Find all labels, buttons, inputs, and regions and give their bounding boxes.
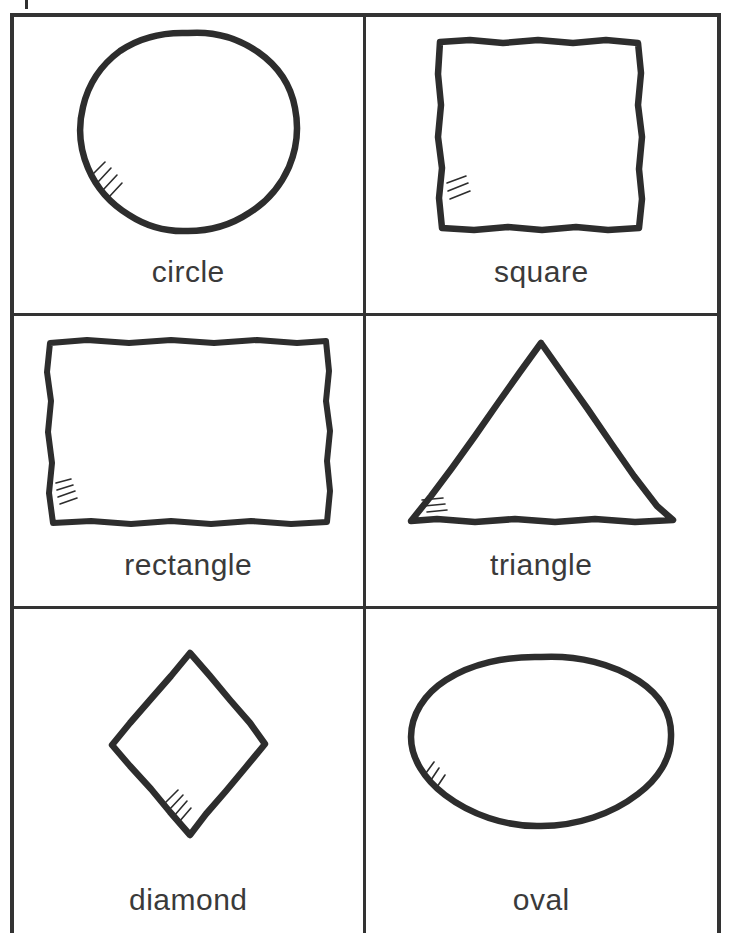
shape-label-triangle: triangle: [366, 550, 718, 580]
shape-card-square[interactable]: square: [366, 17, 718, 316]
shape-card-rectangle[interactable]: rectangle: [14, 316, 366, 609]
triangle-shape-icon: [366, 316, 718, 550]
shape-card-oval[interactable]: oval: [366, 609, 718, 933]
square-shape-icon: [366, 17, 718, 257]
shape-label-square: square: [366, 257, 718, 287]
oval-shape-icon: [366, 609, 718, 885]
registration-tick: [25, 0, 28, 9]
hatch-marks-square: [447, 176, 470, 199]
circle-shape-icon: [14, 17, 363, 257]
shape-label-rectangle: rectangle: [14, 550, 363, 580]
shape-card-triangle[interactable]: triangle: [366, 316, 718, 609]
rectangle-shape-icon: [14, 316, 363, 550]
diamond-shape-icon: [14, 609, 363, 885]
shape-card-circle[interactable]: circle: [14, 17, 366, 316]
hatch-marks-rectangle: [56, 479, 77, 504]
shape-card-diamond[interactable]: diamond: [14, 609, 366, 933]
shape-label-circle: circle: [14, 257, 363, 287]
shapes-grid: circle square: [10, 13, 721, 933]
shape-label-oval: oval: [366, 885, 718, 915]
shape-label-diamond: diamond: [14, 885, 363, 915]
